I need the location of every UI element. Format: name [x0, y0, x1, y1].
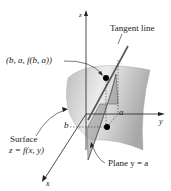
point-label: (b, a, f(b, a)): [6, 56, 52, 65]
surface-label-line1: Surface: [10, 135, 37, 144]
base-point: [104, 124, 110, 130]
surface-leader-arrowhead-icon: [62, 107, 68, 112]
z-axis-arrow-icon: [84, 10, 88, 16]
y-axis-label: y: [159, 118, 163, 126]
z-axis-label: z: [79, 12, 82, 19]
tangent-line-label: Tangent line: [110, 24, 155, 33]
plane-label: Plane y = a: [108, 159, 148, 168]
x-axis-label: x: [46, 180, 50, 188]
plane-leader-arrow: [92, 145, 105, 163]
tangent-label-leader: [118, 34, 122, 44]
y-axis-arrow-icon: [158, 112, 165, 116]
surface-leader-arrow: [36, 110, 65, 136]
surface-label-line2: z = f(x, y): [9, 146, 44, 155]
tangent-point: [103, 75, 109, 81]
a-mark-label: a: [119, 108, 124, 117]
b-mark-label: b: [64, 121, 69, 130]
